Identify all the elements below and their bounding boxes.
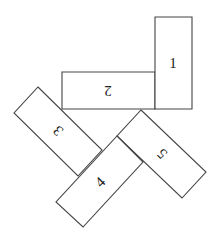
block-2: 2 [62, 72, 155, 109]
block-1: 1 [155, 17, 192, 109]
block-2-label: 2 [104, 83, 112, 99]
block-1-label: 1 [169, 55, 177, 71]
block-stack-diagram: 3 5 4 2 1 [0, 0, 217, 241]
